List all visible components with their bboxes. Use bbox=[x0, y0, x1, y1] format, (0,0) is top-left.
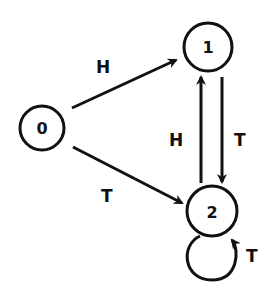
node-2-label: 2 bbox=[206, 203, 217, 222]
edge-2-to-1: H bbox=[169, 77, 201, 183]
edge-1-to-2-label: T bbox=[234, 130, 246, 150]
state-diagram: 0 1 2 H T H T T bbox=[0, 0, 273, 299]
edge-2-self-loop: T bbox=[187, 236, 258, 280]
edge-0-to-1-label: H bbox=[96, 57, 110, 77]
node-0-label: 0 bbox=[36, 119, 47, 138]
edge-0-to-2-label: T bbox=[101, 186, 113, 206]
edge-2-self-loop-label: T bbox=[246, 246, 258, 266]
node-1-label: 1 bbox=[202, 38, 213, 57]
edge-1-to-2: T bbox=[222, 77, 246, 182]
edge-0-to-1: H bbox=[72, 57, 176, 108]
node-2: 2 bbox=[187, 186, 237, 236]
edge-0-to-2: T bbox=[73, 147, 182, 206]
edge-2-to-1-label: H bbox=[169, 130, 183, 150]
node-1: 1 bbox=[184, 23, 232, 71]
node-0: 0 bbox=[20, 106, 64, 150]
